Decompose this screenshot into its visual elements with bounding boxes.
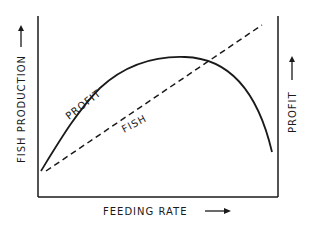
profit-curve-label: PROFIT xyxy=(63,87,103,121)
y-right-axis-label: PROFIT xyxy=(287,91,298,133)
x-axis-label: FEEDING RATE xyxy=(103,206,187,217)
y-left-arrow-icon xyxy=(18,25,24,31)
y-right-arrow-icon xyxy=(289,56,295,62)
chart: PROFIT FISH FEEDING RATE FISH PRODUCTION… xyxy=(0,0,311,227)
fish-line xyxy=(46,25,262,171)
fish-curve-label: FISH xyxy=(120,113,149,135)
y-left-axis-label: FISH PRODUCTION xyxy=(16,55,27,163)
x-axis-arrow-icon xyxy=(224,208,231,214)
